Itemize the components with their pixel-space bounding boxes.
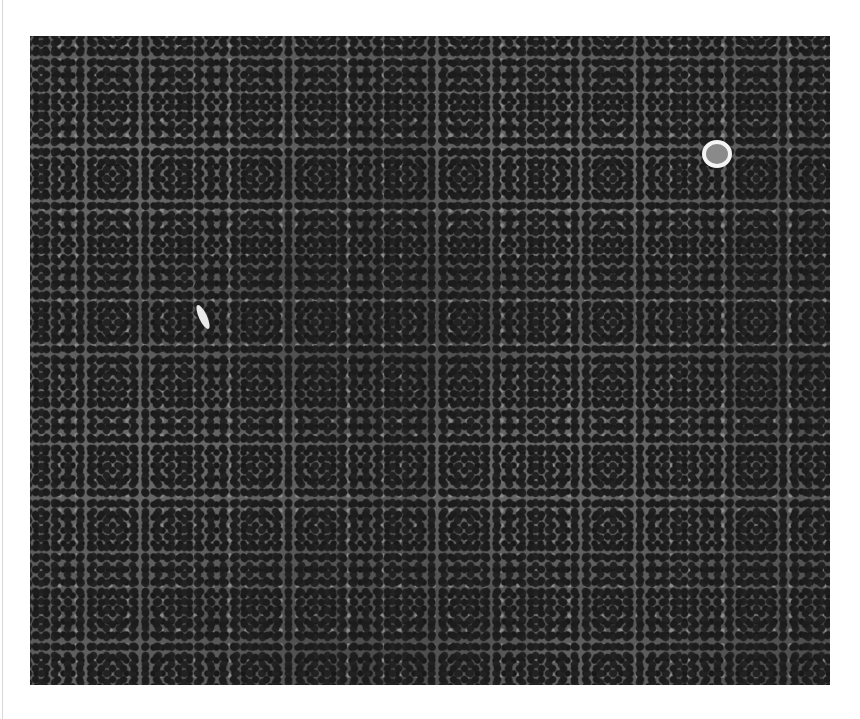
cell-culture-micrograph xyxy=(30,36,830,685)
elongated-bright-cell xyxy=(194,304,212,331)
left-border-line xyxy=(2,0,3,719)
bright-round-cell xyxy=(702,140,732,168)
